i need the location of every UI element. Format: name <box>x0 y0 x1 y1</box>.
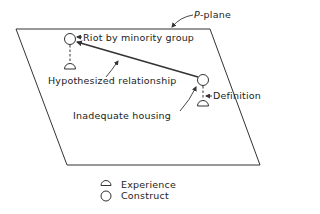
definition-label: Definition <box>213 91 261 101</box>
legend-experience-icon <box>101 181 111 186</box>
construct-label-housing: Inadequate housing <box>73 111 171 121</box>
p-plane-label-suffix: -plane <box>200 9 231 20</box>
p-plane-label: P-plane <box>194 10 231 20</box>
housing-label-pointer <box>180 87 196 111</box>
construct-label-riot: Riot by minority group <box>83 33 194 43</box>
hypothesized-relationship-arrow <box>77 42 198 77</box>
legend-construct-icon <box>101 191 111 201</box>
experience-symbol-riot <box>65 64 76 69</box>
construct-circle-riot <box>65 34 76 45</box>
experience-symbol-housing <box>198 101 209 107</box>
construct-circle-housing <box>198 75 209 86</box>
legend-experience-label: Experience <box>121 180 176 190</box>
legend-construct-label: Construct <box>121 191 169 201</box>
relationship-label: Hypothesized relationship <box>48 76 177 86</box>
p-plane-pointer-arrow <box>172 15 193 27</box>
